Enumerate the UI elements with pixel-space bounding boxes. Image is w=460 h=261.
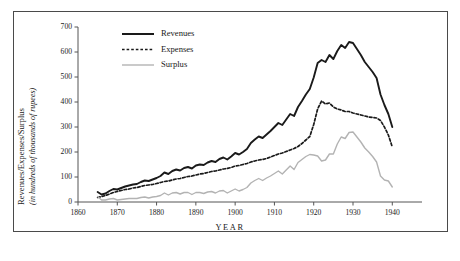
y-tick-label: 400 bbox=[0, 97, 72, 106]
x-tick-label: 1910 bbox=[254, 208, 294, 217]
y-tick-label: 100 bbox=[0, 172, 72, 181]
x-tick-label: 1870 bbox=[97, 208, 137, 217]
y-tick-label: 200 bbox=[0, 147, 72, 156]
legend-swatch-group bbox=[122, 34, 154, 65]
x-tick-label: 1890 bbox=[176, 208, 216, 217]
legend-label-revenues: Revenues bbox=[161, 28, 194, 38]
series-line-expenses bbox=[98, 101, 393, 198]
x-tick-label: 1930 bbox=[333, 208, 373, 217]
x-tick-label: 1940 bbox=[372, 208, 412, 217]
x-tick-label: 1880 bbox=[137, 208, 177, 217]
legend-label-expenses: Expenses bbox=[161, 44, 193, 54]
x-axis-title: YEAR bbox=[0, 223, 460, 232]
y-tick-label: 600 bbox=[0, 47, 72, 56]
x-tick-label: 1860 bbox=[58, 208, 98, 217]
series-line-surplus bbox=[98, 132, 393, 200]
y-tick-label: 700 bbox=[0, 22, 72, 31]
y-tick-label: 0 bbox=[0, 197, 72, 206]
y-tick-label: 500 bbox=[0, 72, 72, 81]
x-tick-label: 1900 bbox=[215, 208, 255, 217]
x-tick-label: 1920 bbox=[294, 208, 334, 217]
y-tick-label: 300 bbox=[0, 122, 72, 131]
legend-label-surplus: Surplus bbox=[161, 59, 187, 69]
axes-group bbox=[75, 27, 423, 206]
